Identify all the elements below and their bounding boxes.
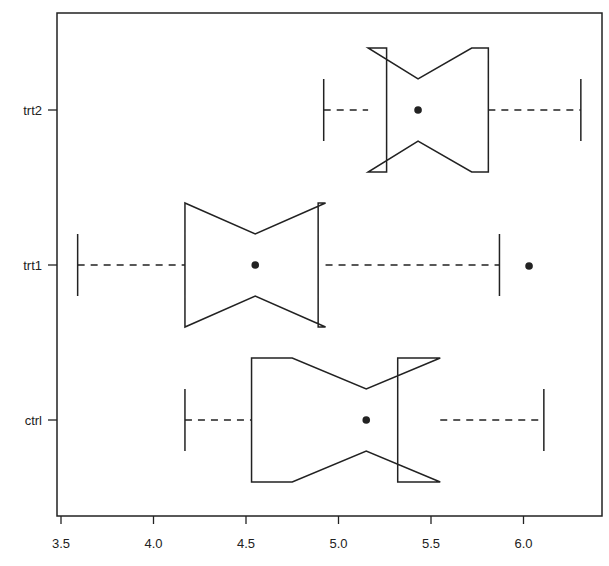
median-marker	[414, 106, 422, 114]
boxplot-chart: 3.54.04.55.05.56.0 ctrltrt1trt2	[0, 0, 609, 566]
notched-box	[252, 358, 441, 482]
x-tick-label: 4.0	[144, 536, 162, 551]
x-axis: 3.54.04.55.05.56.0	[52, 516, 533, 551]
x-tick-label: 5.5	[422, 536, 440, 551]
box-trt2	[324, 48, 581, 172]
boxes	[78, 48, 581, 482]
median-marker	[251, 261, 259, 269]
y-axis: ctrltrt1trt2	[23, 103, 57, 428]
y-tick-label-trt1: trt1	[23, 258, 42, 273]
x-tick-label: 6.0	[514, 536, 532, 551]
y-tick-label-ctrl: ctrl	[25, 413, 42, 428]
x-tick-label: 4.5	[237, 536, 255, 551]
x-tick-label: 5.0	[329, 536, 347, 551]
outlier-point	[525, 262, 533, 270]
box-trt1	[78, 203, 533, 327]
box-ctrl	[185, 358, 544, 482]
y-tick-label-trt2: trt2	[23, 103, 42, 118]
median-marker	[362, 416, 370, 424]
notched-box	[368, 48, 488, 172]
x-tick-label: 3.5	[52, 536, 70, 551]
